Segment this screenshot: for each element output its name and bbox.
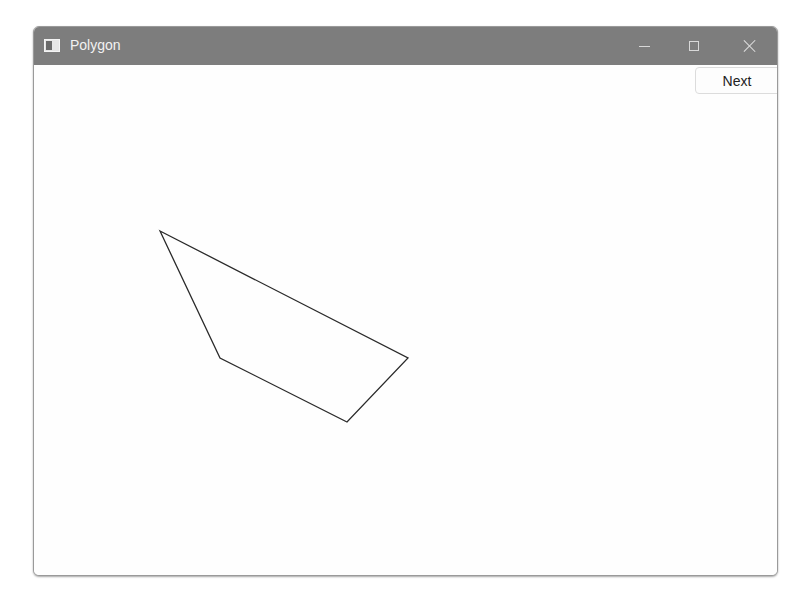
minimize-icon (639, 46, 650, 47)
close-button[interactable] (727, 27, 773, 65)
drawing-canvas (34, 65, 778, 576)
app-window-icon (44, 39, 60, 52)
window-title: Polygon (70, 37, 121, 53)
title-bar[interactable]: Polygon (34, 27, 777, 65)
polygon-window: Polygon Next (33, 26, 778, 576)
minimize-button[interactable] (621, 27, 667, 65)
close-icon (743, 39, 757, 53)
next-button[interactable]: Next (695, 67, 778, 94)
maximize-icon (689, 41, 699, 51)
client-area: Next (34, 65, 777, 575)
maximize-button[interactable] (671, 27, 717, 65)
polygon-shape (160, 231, 408, 422)
